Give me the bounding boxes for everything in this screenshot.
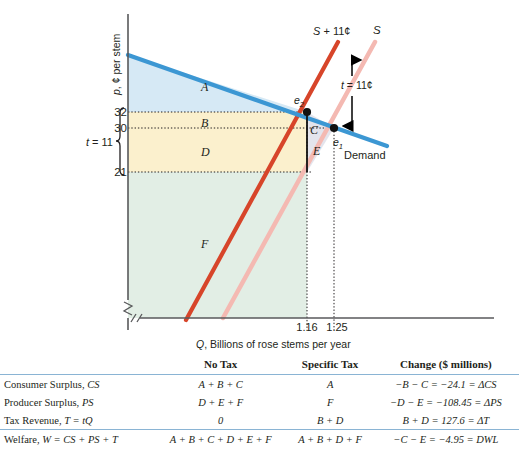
row-label-welfare: Welfare, W = CS + PS + T (0, 430, 154, 449)
cell-no-tax: D + E + F (154, 393, 287, 411)
area-label-C: C (310, 123, 319, 137)
row-label-text: Welfare, (4, 434, 42, 445)
row-label-text: Producer Surplus, (4, 397, 82, 408)
table-row: Consumer Surplus, CS A + B + C A −B − C … (0, 375, 519, 394)
row-label-tax-revenue: Tax Revenue, T = tQ (0, 411, 154, 430)
tax-arrow-label: t = 11¢ (341, 79, 373, 91)
tax-brace-label: t = 11 (86, 136, 113, 148)
y-axis-label: p, ¢ per stem (110, 33, 122, 96)
table-row: Tax Revenue, T = tQ 0 B + D B + D = 127.… (0, 411, 519, 430)
cell-specific-tax: A (287, 375, 372, 394)
welfare-table-container: No Tax Specific Tax Change ($ millions) … (0, 355, 519, 460)
row-label-producer-surplus: Producer Surplus, PS (0, 393, 154, 411)
row-label-consumer-surplus: Consumer Surplus, CS (0, 375, 154, 394)
area-label-E: E (312, 144, 321, 158)
x-tick-125: 1.25 (326, 321, 347, 333)
supply-plus-tax-label: S + 11¢ (313, 25, 350, 37)
cell-no-tax: A + B + C (154, 375, 287, 394)
x-tick-116: 1.16 (296, 321, 317, 333)
area-F-shape (128, 172, 307, 318)
demand-label: Demand (344, 149, 386, 161)
cell-specific-tax: A + B + D + F (287, 430, 372, 449)
cell-change: −C − E = −4.95 = DWL (373, 430, 519, 449)
equilibrium-point-e2 (303, 108, 311, 116)
area-label-D: D (200, 145, 210, 159)
welfare-table-head: No Tax Specific Tax Change ($ millions) (0, 355, 519, 375)
cell-specific-tax: B + D (287, 411, 372, 430)
equilibrium-label-e2: e2 (294, 94, 305, 109)
cell-no-tax: 0 (154, 411, 287, 430)
tax-brace (116, 108, 124, 175)
equilibrium-point-e1 (330, 124, 338, 132)
row-label-text: Consumer Surplus, (4, 379, 87, 390)
col-header-specific-tax: Specific Tax (287, 355, 372, 375)
area-label-F: F (200, 237, 209, 251)
row-label-symbol: PS (82, 397, 94, 408)
area-label-B: B (201, 116, 209, 130)
x-axis-label: Q, Billions of rose stems per year (196, 338, 351, 350)
row-label-symbol: CS (87, 379, 99, 390)
row-label-symbol: W = CS + PS + T (42, 434, 118, 445)
col-header-change: Change ($ millions) (373, 355, 519, 375)
row-label-text: Tax Revenue, (4, 415, 64, 426)
table-row: Producer Surplus, PS D + E + F F −D − E … (0, 393, 519, 411)
table-row: Welfare, W = CS + PS + T A + B + C + D +… (0, 430, 519, 449)
equilibrium-label-e1: e1 (333, 136, 343, 151)
cell-change: −D − E = −108.45 = ΔPS (373, 393, 519, 411)
col-header-no-tax: No Tax (154, 355, 287, 375)
cell-no-tax: A + B + C + D + E + F (154, 430, 287, 449)
area-B-shape (128, 112, 307, 128)
cell-specific-tax: F (287, 393, 372, 411)
area-label-A: A (200, 80, 209, 94)
y-tick-21: 21 (114, 166, 127, 178)
welfare-table: No Tax Specific Tax Change ($ millions) … (0, 355, 519, 448)
col-header-blank (0, 355, 154, 375)
supply-label: S (373, 24, 381, 36)
welfare-table-body: Consumer Surplus, CS A + B + C A −B − C … (0, 375, 519, 449)
cell-change: −B − C = −24.1 = ΔCS (373, 375, 519, 394)
cell-change: B + D = 127.6 = ΔT (373, 411, 519, 430)
table-header-row: No Tax Specific Tax Change ($ millions) (0, 355, 519, 375)
y-tick-30: 30 (114, 122, 127, 134)
row-label-symbol: T = tQ (64, 415, 93, 426)
y-tick-32: 32 (114, 106, 127, 118)
supply-demand-tax-figure: p, ¢ per stem 32 30 21 t = 11 1.16 1.25 … (0, 0, 519, 355)
